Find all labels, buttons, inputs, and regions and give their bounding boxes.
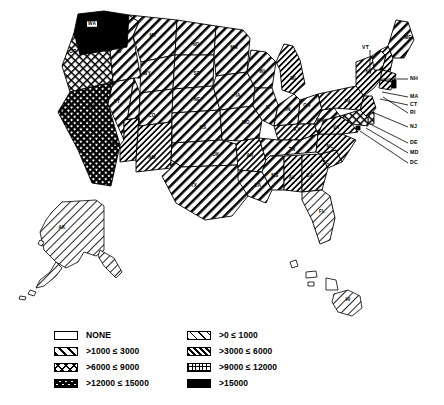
state-label-MO: MO [242, 120, 250, 125]
state-label-OR: OR [69, 49, 77, 54]
legend-item-12000-15000[interactable]: >12000 ≤ 15000 [54, 376, 149, 391]
state-label-FL: FL [319, 209, 325, 214]
hawaii-island-maui [326, 278, 338, 290]
external-label-MD: MD [410, 149, 419, 155]
state-NM[interactable] [136, 118, 172, 172]
state-label-IN: IN [286, 107, 291, 112]
state-HI[interactable] [332, 290, 362, 316]
state-CO[interactable] [139, 89, 173, 126]
state-label-NM: NM [148, 155, 156, 160]
legend-swatch-0-1000 [187, 331, 211, 340]
map-canvas: WAORCANVIDMTWYUTAZCONMNDSDNEKSOKTXMNIAMO… [0, 0, 444, 322]
state-OK[interactable] [171, 140, 238, 167]
state-label-CO: CO [148, 113, 156, 118]
state-label-KY: KY [294, 127, 301, 132]
aleutian-island-1 [28, 290, 36, 296]
state-label-WY: WY [143, 71, 151, 76]
state-IA[interactable] [213, 72, 255, 110]
legend-item-3000-6000[interactable]: >3000 ≤ 6000 [187, 344, 277, 359]
legend-swatch-6000-9000 [54, 363, 78, 372]
hawaii-island-molokai [308, 282, 314, 286]
external-label-MA: MA [410, 93, 419, 99]
leader-line-DC [360, 131, 408, 163]
alaska-peninsula [36, 262, 62, 288]
state-label-NV: NV [88, 104, 96, 109]
state-label-UT: UT [114, 99, 121, 104]
legend-label-15000+: >15000 [219, 379, 248, 388]
state-label-ME: ME [404, 35, 411, 40]
state-label-NC: NC [326, 144, 334, 149]
state-label-IA: IA [236, 93, 241, 98]
state-label-PA: PA [345, 99, 352, 104]
legend-label-none: NONE [86, 331, 111, 340]
state-label-AK: AK [58, 225, 66, 230]
state-label-WI: WI [259, 69, 265, 74]
legend-item-6000-9000[interactable]: >6000 ≤ 9000 [54, 360, 149, 375]
state-label-WV: WV [316, 118, 325, 123]
state-label-CA: CA [59, 110, 67, 115]
legend-swatch-15000+ [187, 379, 211, 388]
state-label-NE: NE [194, 97, 201, 102]
legend-item-15000+[interactable]: >15000 [187, 376, 277, 391]
state-CT[interactable] [379, 80, 392, 90]
state-RI[interactable] [392, 80, 396, 88]
state-label-LA: LA [255, 183, 262, 188]
legend-label-6000-9000: >6000 ≤ 9000 [86, 363, 139, 372]
legend-item-9000-12000[interactable]: >9000 ≤ 12000 [187, 360, 277, 375]
state-label-AL: AL [289, 175, 296, 180]
state-MO[interactable] [220, 106, 262, 141]
legend-label-3000-6000: >3000 ≤ 6000 [219, 347, 272, 356]
legend-label-12000-15000: >12000 ≤ 15000 [86, 379, 149, 388]
legend-swatch-none [54, 331, 78, 340]
state-MN[interactable] [214, 26, 250, 76]
legend-swatch-1000-3000 [54, 347, 78, 356]
state-label-MT: MT [149, 33, 156, 38]
state-DC[interactable] [356, 126, 360, 130]
legend-swatch-3000-6000 [187, 347, 211, 356]
state-label-TX: TX [191, 183, 198, 188]
state-label-WA: WA [88, 21, 96, 26]
us-map[interactable]: WAORCANVIDMTWYUTAZCONMNDSDNEKSOKTXMNIAMO… [0, 0, 444, 322]
state-label-OK: OK [212, 152, 220, 157]
hawaii-island-oahu [306, 271, 317, 278]
state-label-KS: KS [200, 125, 207, 130]
state-AL[interactable] [284, 155, 302, 192]
state-label-MI: MI [290, 76, 296, 81]
state-label-MS: MS [271, 173, 278, 178]
state-KS[interactable] [172, 110, 222, 143]
leader-line-MA [382, 92, 408, 97]
state-MI[interactable] [276, 44, 305, 94]
legend-item-1000-3000[interactable]: >1000 ≤ 3000 [54, 344, 149, 359]
legend-label-0-1000: >0 ≤ 1000 [219, 331, 258, 340]
state-label-MN: MN [230, 45, 238, 50]
alaska-inset[interactable] [19, 200, 122, 300]
legend-label-1000-3000: >1000 ≤ 3000 [86, 347, 139, 356]
state-label-SD: SD [194, 71, 201, 76]
external-label-DE: DE [410, 139, 418, 145]
state-AK[interactable] [40, 200, 104, 268]
state-label-AZ: AZ [111, 141, 118, 146]
hawaii-inset[interactable] [290, 260, 362, 316]
state-DE[interactable] [368, 112, 374, 124]
external-label-RI: RI [410, 109, 416, 115]
hawaii-island-kauai [290, 260, 298, 268]
external-label-CT: CT [410, 101, 418, 107]
external-label-DC: DC [410, 159, 418, 165]
state-ND[interactable] [175, 20, 216, 55]
state-PA[interactable] [318, 86, 364, 110]
state-label-AR: AR [246, 153, 254, 158]
state-label-SC: SC [323, 160, 330, 165]
state-FL[interactable] [302, 190, 335, 244]
state-label-OH: OH [303, 103, 311, 108]
state-TX[interactable] [162, 160, 248, 220]
legend-swatch-9000-12000 [187, 363, 211, 372]
state-label-NY: NY [366, 69, 373, 74]
external-label-NJ: NJ [410, 123, 417, 129]
legend-item-none[interactable]: NONE [54, 328, 149, 343]
state-label-TN: TN [289, 147, 296, 152]
aleutian-island-2 [19, 296, 26, 300]
legend-item-0-1000[interactable]: >0 ≤ 1000 [187, 328, 277, 343]
state-label-GA: GA [306, 173, 314, 178]
state-label-ID: ID [117, 49, 122, 54]
alaska-panhandle [98, 250, 122, 278]
